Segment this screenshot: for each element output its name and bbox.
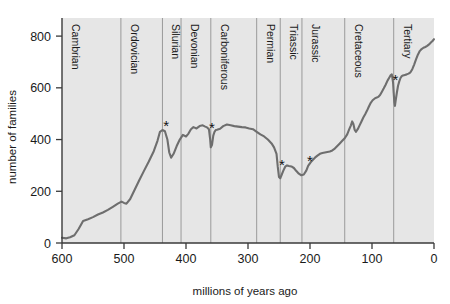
- y-axis-title: number of families: [6, 90, 18, 184]
- x-tick-label-600: 600: [52, 252, 73, 266]
- x-tick-label-500: 500: [114, 252, 135, 266]
- y-tick-label-600: 600: [30, 81, 51, 95]
- extinction-marker-late-devonian: *: [209, 119, 215, 136]
- period-label-triassic: Triassic: [288, 24, 300, 60]
- x-tick-label-0: 0: [431, 252, 438, 266]
- diversity-line-chart: ***** 6005004003002001000 0200400600800 …: [0, 0, 450, 304]
- period-label-permian: Permian: [265, 24, 277, 63]
- period-label-carboniferous: Carboniferous: [219, 24, 231, 90]
- y-tick-label-800: 800: [30, 30, 51, 44]
- extinction-marker-end-cretaceous: *: [393, 71, 399, 88]
- extinction-marker-end-ordovician: *: [163, 117, 169, 134]
- plot-background: [62, 18, 434, 243]
- chart-figure: ***** 6005004003002001000 0200400600800 …: [0, 0, 450, 304]
- x-tick-label-300: 300: [238, 252, 259, 266]
- y-tick-label-400: 400: [30, 133, 51, 147]
- x-tick-label-200: 200: [300, 252, 321, 266]
- x-tick-label-400: 400: [176, 252, 197, 266]
- y-tick-label-0: 0: [44, 237, 51, 251]
- period-label-silurian: Silurian: [170, 24, 182, 59]
- x-axis-title: millions of years ago: [193, 285, 298, 297]
- period-label-jurassic: Jurassic: [310, 24, 322, 63]
- extinction-marker-end-permian: *: [279, 156, 285, 173]
- period-label-cambrian: Cambrian: [70, 24, 82, 70]
- x-tick-label-100: 100: [362, 252, 383, 266]
- period-label-cretaceous: Cretaceous: [353, 24, 365, 78]
- period-label-ordovician: Ordovician: [129, 24, 141, 74]
- extinction-marker-end-triassic: *: [307, 152, 313, 169]
- period-label-devonian: Devonian: [189, 24, 201, 69]
- period-label-tertiary: Tertiary: [402, 24, 414, 59]
- y-tick-label-200: 200: [30, 185, 51, 199]
